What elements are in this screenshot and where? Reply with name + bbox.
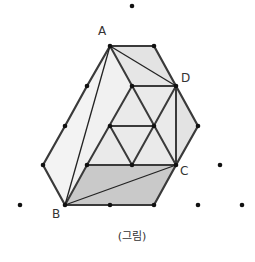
label-a: A bbox=[98, 24, 107, 38]
label-b: B bbox=[52, 207, 60, 221]
right-strip-region bbox=[176, 86, 198, 165]
label-c: C bbox=[180, 164, 188, 178]
figure-caption: (그림) bbox=[118, 230, 147, 243]
label-d: D bbox=[181, 71, 190, 85]
geometry-figure: A D C B (그림) bbox=[0, 0, 255, 262]
